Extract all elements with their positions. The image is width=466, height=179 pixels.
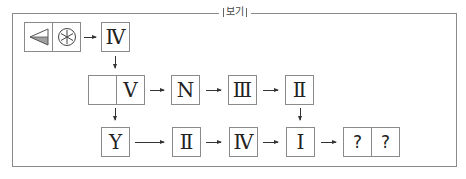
arrow-down-icon bbox=[115, 56, 116, 68]
answer-box: ? ? bbox=[343, 127, 400, 157]
node-row3-ii: Ⅱ bbox=[172, 127, 201, 157]
node-row3-i: Ⅰ bbox=[286, 127, 315, 157]
arrow-right-icon bbox=[150, 90, 164, 91]
arrow-right-icon bbox=[263, 90, 278, 91]
arrow-down-icon bbox=[115, 108, 116, 120]
answer-cell-1: ? bbox=[344, 128, 371, 156]
legend-tick-left bbox=[223, 8, 224, 17]
split-cell-empty bbox=[89, 76, 116, 104]
arrow-right-icon bbox=[206, 142, 221, 143]
left-triangle-half-shaded-icon bbox=[29, 28, 49, 46]
split-cell-v: Ⅴ bbox=[116, 76, 144, 104]
split-box-row2: Ⅴ bbox=[88, 75, 145, 105]
node-row2-iii: Ⅲ bbox=[228, 75, 257, 105]
arrow-down-icon bbox=[300, 108, 301, 120]
legend-tick-right bbox=[246, 8, 247, 17]
answer-cell-2: ? bbox=[371, 128, 399, 156]
arrow-right-icon bbox=[321, 142, 336, 143]
node-row2-ii: Ⅱ bbox=[285, 75, 314, 105]
node-row2-n: N bbox=[171, 75, 200, 105]
symbol-cell-asterisk bbox=[52, 23, 80, 51]
legend-text: 보기 bbox=[226, 5, 244, 19]
symbol-pair-box bbox=[24, 22, 81, 52]
node-row1-iv: Ⅳ bbox=[101, 22, 130, 52]
arrow-right-icon bbox=[206, 90, 221, 91]
symbol-cell-triangle bbox=[25, 23, 52, 51]
node-row3-y: Y bbox=[101, 127, 130, 157]
node-row3-iv: Ⅳ bbox=[229, 127, 258, 157]
legend-label: 보기 bbox=[219, 5, 251, 19]
arrow-right-icon bbox=[263, 142, 278, 143]
arrow-right-icon bbox=[84, 37, 96, 38]
arrow-right-icon bbox=[135, 142, 164, 143]
circled-asterisk-icon bbox=[57, 27, 77, 47]
